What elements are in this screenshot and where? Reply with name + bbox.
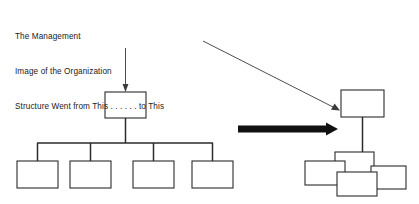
org-box-child-1 [17, 161, 58, 188]
caption-line-2: Image of the Organization [15, 66, 164, 78]
org-box-child-4 [192, 161, 233, 188]
diagram-canvas: The Management Image of the Organization… [0, 0, 419, 204]
arrow-to-jumbled-chart [203, 41, 340, 111]
diagram-caption: The Management Image of the Organization… [15, 8, 164, 136]
org-box-child-3 [133, 161, 174, 188]
jumbled-box-top [341, 90, 384, 117]
jumbled-box-bottom [337, 172, 377, 196]
transformation-arrow [238, 123, 338, 136]
org-box-child-2 [70, 161, 111, 188]
caption-line-3: Structure Went from This . . . . . . to … [15, 101, 164, 113]
jumbled-hierarchy-chart [305, 90, 406, 196]
caption-line-1: The Management [15, 31, 164, 43]
